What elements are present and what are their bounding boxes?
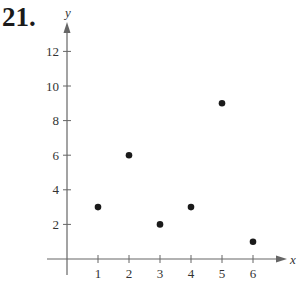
- data-point: [250, 238, 257, 245]
- x-tick-label: 2: [126, 266, 133, 281]
- y-axis-label: y: [63, 5, 71, 20]
- ticks: 12345624681012: [46, 44, 257, 281]
- y-tick-label: 6: [53, 148, 60, 163]
- y-axis-arrow-icon: [64, 22, 71, 33]
- y-tick-label: 4: [53, 182, 60, 197]
- data-point: [219, 100, 226, 107]
- x-tick-label: 6: [250, 266, 257, 281]
- y-tick-label: 2: [53, 217, 60, 232]
- data-point: [157, 221, 164, 228]
- x-tick-label: 4: [188, 266, 195, 281]
- data-points: [95, 100, 257, 245]
- y-tick-label: 8: [53, 113, 60, 128]
- scatter-chart: xy 12345624681012: [0, 0, 303, 292]
- data-point: [126, 152, 133, 159]
- x-tick-label: 1: [95, 266, 102, 281]
- data-point: [95, 204, 102, 211]
- data-point: [188, 204, 195, 211]
- y-tick-label: 10: [46, 79, 59, 94]
- axes: xy: [47, 5, 296, 275]
- x-tick-label: 5: [219, 266, 226, 281]
- x-axis-label: x: [289, 252, 296, 267]
- y-tick-label: 12: [46, 44, 59, 59]
- x-tick-label: 3: [157, 266, 164, 281]
- x-axis-arrow-icon: [276, 256, 287, 263]
